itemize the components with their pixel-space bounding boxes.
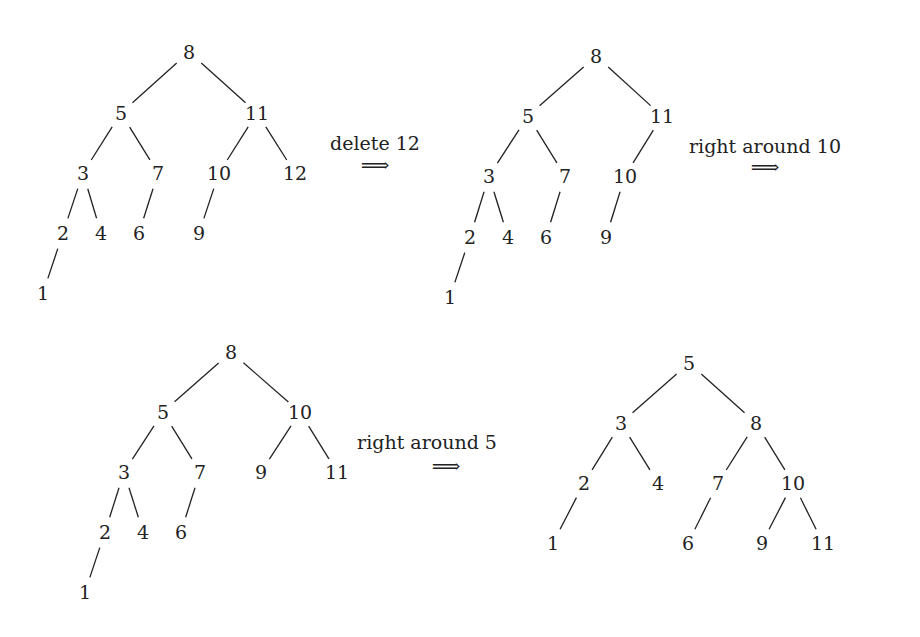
tree-edge (769, 498, 785, 530)
transition-label: delete 12 (330, 134, 420, 153)
tree-node: 10 (207, 164, 231, 183)
tree-node: 2 (578, 474, 590, 493)
tree-edge (701, 374, 744, 413)
tree-edge (497, 130, 519, 163)
tree-node: 8 (225, 343, 237, 362)
tree-node: 9 (193, 224, 205, 243)
tree-node: 7 (194, 463, 206, 482)
transition-label: right around 5 (357, 433, 497, 452)
tree-edge (132, 426, 154, 459)
tree-edge (540, 67, 584, 106)
tree-node: 1 (79, 583, 91, 602)
tree-node: 12 (283, 164, 307, 183)
tree-node: 6 (175, 523, 187, 542)
tree-node: 7 (712, 474, 724, 493)
tree-node: 3 (118, 463, 130, 482)
tree-node: 11 (245, 104, 269, 123)
tree-edge (129, 488, 138, 518)
tree-edge (132, 63, 176, 103)
tree-edge (110, 488, 119, 518)
tree-edge (608, 67, 650, 106)
tree-edge (611, 192, 621, 223)
tree-edge (204, 189, 214, 219)
tree-edge (144, 189, 153, 219)
tree-node: 9 (600, 228, 612, 247)
tree-node: 9 (756, 534, 768, 553)
tree-node: 1 (547, 534, 559, 553)
transition-label: right around 10 (689, 137, 841, 156)
tree-node: 4 (502, 228, 514, 247)
tree-node: 8 (590, 47, 602, 66)
tree-node: 10 (613, 167, 637, 186)
tree-node: 8 (750, 414, 762, 433)
tree-node: 5 (683, 354, 695, 373)
tree-edge (800, 498, 816, 529)
implies-arrow-icon: ⟹ (751, 157, 780, 177)
tree-edge (269, 426, 291, 459)
tree-node: 10 (288, 403, 312, 422)
tree-node: 9 (255, 463, 267, 482)
tree-edge (695, 498, 711, 529)
tree-edge (455, 253, 465, 283)
tree-edge (309, 426, 329, 459)
tree-edge (88, 189, 97, 218)
tree-edge (630, 437, 650, 470)
tree-node: 11 (811, 534, 835, 553)
tree-edge (90, 548, 100, 578)
tree-edge (227, 127, 248, 160)
tree-node: 2 (99, 523, 111, 542)
tree-edge (91, 127, 112, 160)
tree-edge (172, 426, 192, 459)
tree-node: 4 (652, 474, 664, 493)
tree-node: 11 (325, 463, 349, 482)
tree-node: 10 (781, 474, 805, 493)
implies-arrow-icon: ⟹ (361, 155, 390, 175)
tree-node: 5 (522, 107, 534, 126)
tree-edge (765, 437, 785, 470)
tree-node: 3 (77, 164, 89, 183)
tree-edge (175, 363, 219, 402)
tree-edge (633, 130, 653, 163)
tree-node: 8 (183, 43, 195, 62)
implies-arrow-icon: ⟹ (432, 456, 461, 476)
tree-edge (130, 127, 150, 160)
tree-node: 3 (615, 414, 627, 433)
tree-edge (68, 189, 78, 219)
tree-edge (48, 249, 58, 279)
tree-node: 1 (444, 288, 456, 307)
tree-node: 7 (152, 164, 164, 183)
tree-node: 2 (57, 224, 69, 243)
tree-edge (560, 498, 576, 530)
tree-node: 2 (464, 228, 476, 247)
tree-node: 4 (95, 224, 107, 243)
tree-node: 11 (650, 107, 674, 126)
tree-edge (537, 130, 557, 163)
tree-edge (243, 363, 288, 402)
tree-node: 6 (133, 224, 145, 243)
tree-edge (551, 192, 561, 223)
tree-edge (633, 374, 677, 413)
tree-edge (266, 127, 287, 160)
tree-node: 4 (137, 523, 149, 542)
tree-edge (201, 63, 245, 103)
tree-node: 6 (682, 534, 694, 553)
tree-node: 3 (483, 167, 495, 186)
tree-edge (186, 488, 195, 518)
tree-node: 5 (115, 104, 127, 123)
tree-edge (475, 192, 485, 223)
tree-edge (726, 437, 747, 470)
tree-node: 1 (37, 284, 49, 303)
tree-node: 6 (540, 228, 552, 247)
tree-edge (592, 437, 612, 470)
tree-node: 5 (157, 403, 169, 422)
tree-edge (494, 192, 504, 223)
tree-node: 7 (559, 167, 571, 186)
